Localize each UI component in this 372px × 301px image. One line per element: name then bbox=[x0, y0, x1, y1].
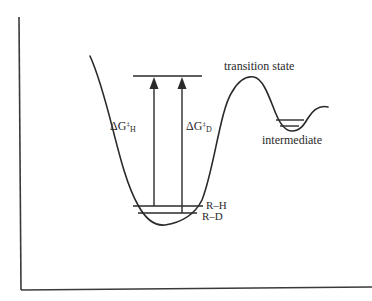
dg-d-delta: ΔG bbox=[186, 119, 202, 133]
dg-d-sub: D bbox=[206, 125, 212, 134]
dg-h-delta: ΔG bbox=[110, 119, 126, 133]
dg-h-label: ΔG‡H bbox=[110, 120, 136, 134]
dg-d-label: ΔG‡D bbox=[186, 120, 212, 134]
dg-h-sub: H bbox=[130, 125, 136, 134]
dg-d-arrowhead-icon bbox=[178, 77, 187, 89]
intermediate-label: intermediate bbox=[262, 134, 322, 146]
transition-state-label: transition state bbox=[224, 60, 294, 72]
dg-h-arrowhead-icon bbox=[150, 77, 159, 89]
y-axis bbox=[19, 17, 21, 290]
x-axis bbox=[21, 287, 372, 290]
rd-label: R–D bbox=[202, 211, 223, 222]
energy-diagram bbox=[0, 0, 372, 301]
